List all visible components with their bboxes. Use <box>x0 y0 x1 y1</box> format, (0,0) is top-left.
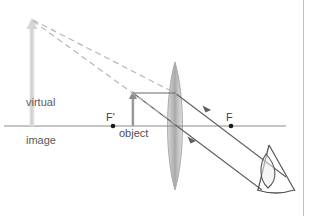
focal-point-left-label: F' <box>106 111 115 124</box>
eye-base <box>257 190 294 193</box>
virtual-image-label-line1: virtual <box>26 96 56 109</box>
virtual-image-label: virtual image <box>26 71 56 172</box>
virtual-image-label-line2: image <box>26 134 56 147</box>
eye-lens <box>261 154 275 188</box>
object-arrow <box>129 91 137 126</box>
arrowhead-refracted-ray <box>203 106 212 113</box>
focal-point-right-dot <box>229 124 234 129</box>
focal-point-right-label: F <box>226 111 233 124</box>
figure-canvas: virtual image F' F object <box>0 0 310 216</box>
object-label: object <box>119 127 148 140</box>
focal-point-left-dot <box>111 124 116 129</box>
central-ray <box>133 93 262 190</box>
